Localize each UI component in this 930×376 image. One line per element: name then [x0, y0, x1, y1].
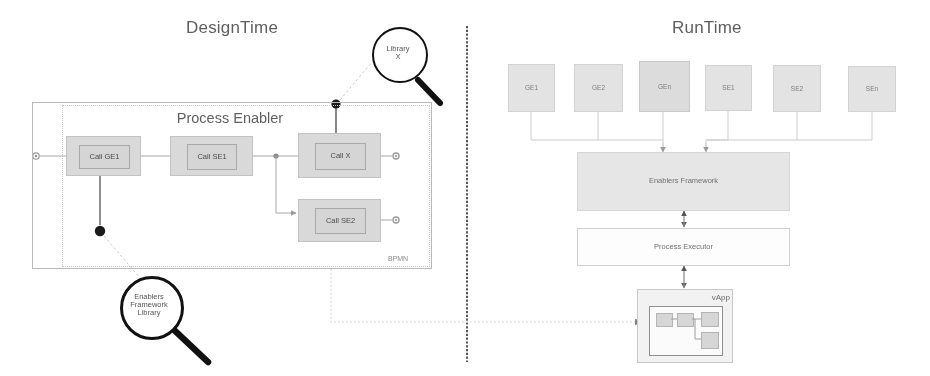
task-call-se2-label: Call SE2 — [315, 208, 366, 234]
callout-library-x-label: Library X — [372, 27, 424, 79]
vapp-block[interactable]: vApp — [637, 289, 733, 363]
runtime-block-sen-label: SEn — [848, 66, 896, 112]
deployment-trace-bpmn-to-vapp — [331, 269, 641, 322]
diagram-canvas: DesignTime RunTime — [0, 0, 930, 376]
vapp-mini-connectors — [650, 307, 724, 357]
task-call-x[interactable]: Call X — [298, 133, 381, 178]
runtime-block-gen-label: GEn — [639, 61, 690, 112]
vapp-label: vApp — [676, 291, 735, 305]
runtime-block-se2-label: SE2 — [773, 65, 821, 112]
runtime-block-se1-label: SE1 — [705, 65, 752, 111]
vapp-process-canvas — [649, 306, 723, 356]
process-enabler-title: Process Enabler — [150, 109, 310, 129]
callout-enablers-framework-library-label: Enablers Framework Library — [121, 277, 177, 333]
runtime-block-ge1-label: GE1 — [508, 64, 555, 112]
leader-dashed-library-x — [340, 62, 372, 100]
magnifier-handle-efl — [172, 328, 208, 362]
task-call-ge1[interactable]: Call GE1 — [66, 136, 141, 176]
task-call-se1[interactable]: Call SE1 — [170, 136, 253, 176]
bpmn-pool-frame — [62, 105, 430, 267]
task-call-se2[interactable]: Call SE2 — [298, 199, 381, 242]
task-call-se1-label: Call SE1 — [187, 144, 237, 170]
bpmn-tag: BPMN — [376, 254, 420, 264]
task-call-x-label: Call X — [315, 143, 366, 170]
process-executor-label: Process Executor — [577, 228, 790, 266]
magnifier-handle-library-x — [418, 80, 440, 103]
enablers-framework-label: Enablers Framework — [577, 152, 790, 211]
task-call-ge1-label: Call GE1 — [79, 145, 130, 169]
runtime-block-ge2-label: GE2 — [574, 64, 623, 112]
